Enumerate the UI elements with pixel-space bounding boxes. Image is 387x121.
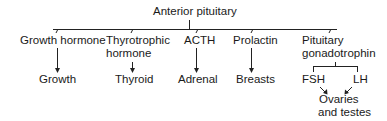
target-ovaries-line1: Ovaries: [319, 93, 359, 105]
hormone-gonadotrophin-line1: Pituitary: [302, 34, 344, 46]
hormone-prolactin: Prolactin: [233, 34, 278, 46]
hormone-thyrotrophic-line2: hormone: [106, 47, 151, 59]
target-adrenal: Adrenal: [178, 73, 218, 85]
hormone-acth: ACTH: [184, 34, 215, 46]
child-fsh: FSH: [302, 73, 325, 85]
target-thyroid: Thyroid: [115, 73, 153, 85]
target-growth: Growth: [39, 73, 76, 85]
target-ovaries-line2: and testes: [318, 106, 371, 118]
child-lh: LH: [353, 73, 368, 85]
target-breasts: Breasts: [236, 73, 275, 85]
hormone-gonadotrophin-line2: gonadotrophin: [302, 47, 376, 59]
hormone-growth-hormone: Growth hormone: [20, 34, 106, 46]
hormone-thyrotrophic-line1: Thyrotrophic: [106, 34, 170, 46]
root-anterior-pituitary: Anterior pituitary: [153, 5, 237, 17]
